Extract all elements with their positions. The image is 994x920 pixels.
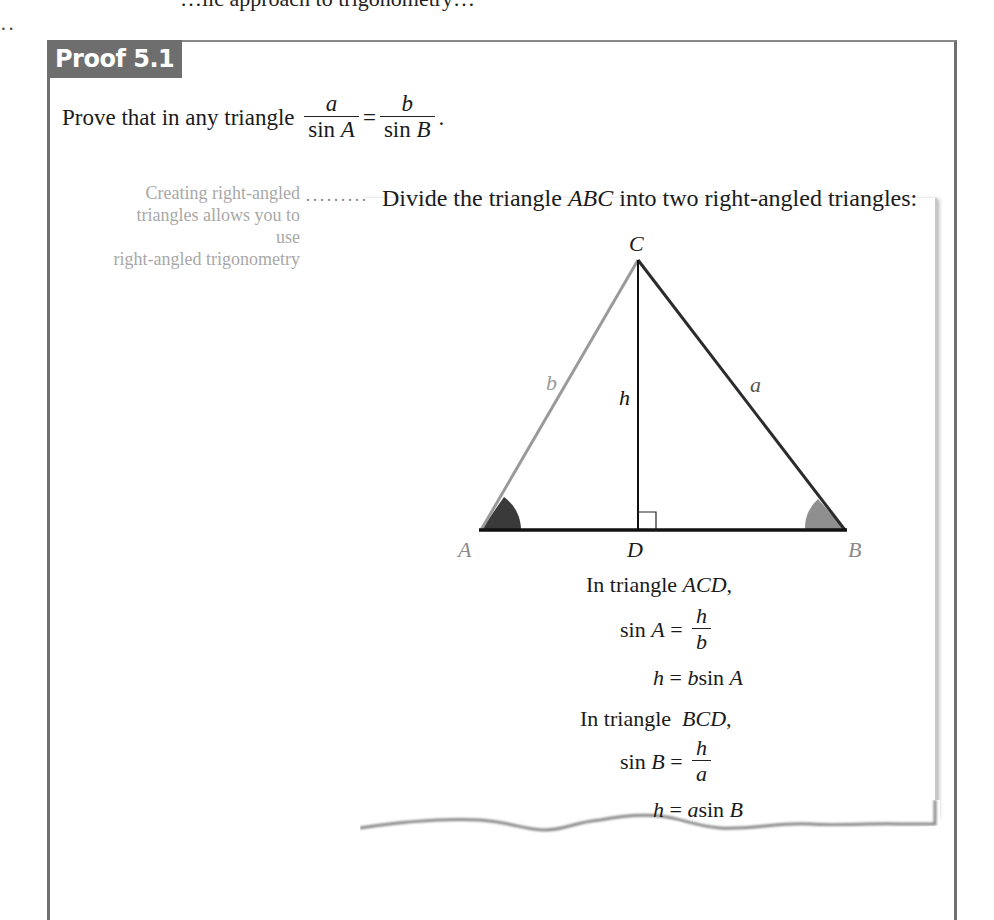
previous-text-cutoff: …lic approach to trigonometry… <box>180 0 475 12</box>
side-label-h: h <box>619 385 630 411</box>
den-sinB: sin B <box>380 116 435 143</box>
vertex-label-D: D <box>627 537 643 563</box>
fraction-a-over-sinA: a sin A <box>304 92 359 143</box>
margin-note: Creating right-angled triangles allows y… <box>110 182 300 270</box>
vertex-label-B: B <box>848 537 861 563</box>
side-label-a: a <box>750 372 761 398</box>
eq-h-asinB: h = asin B <box>653 797 743 823</box>
leader-dots: ·· <box>0 18 15 41</box>
fraction-h-over-a: h a <box>692 736 711 787</box>
sinA-lhs: sin A = <box>620 617 688 643</box>
fraction-b-over-sinB: b sin B <box>380 92 435 143</box>
proof-title: Proof 5.1 <box>47 40 182 78</box>
vertex-label-C: C <box>629 231 644 257</box>
proof-statement: Prove that in any triangle a sin A = b s… <box>62 92 444 143</box>
step-divide-text: Divide the triangle ABC into two right-a… <box>382 185 917 212</box>
torn-edge <box>360 800 940 840</box>
acd-intro: In triangle ACD, <box>586 572 732 598</box>
sinB-lhs: sin B = <box>620 749 688 775</box>
vertex-label-A: A <box>458 537 471 563</box>
side-label-b: b <box>546 370 557 396</box>
fraction-h-over-b: h b <box>692 604 711 655</box>
eq-sinA: sin A = h b <box>620 604 715 655</box>
bcd-intro: In triangle BCD, <box>580 706 732 732</box>
statement-text: Prove that in any triangle <box>62 105 295 131</box>
eq-sinB: sin B = h a <box>620 736 715 787</box>
note-leader-dots: ········· <box>305 190 368 211</box>
eq-h-bsinA: h = bsin A <box>653 665 743 691</box>
den-sinA: sin A <box>304 116 359 143</box>
